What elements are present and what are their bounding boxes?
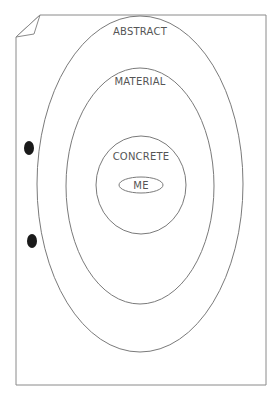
abstract-label: ABSTRACT bbox=[113, 26, 167, 37]
material-label: MATERIAL bbox=[114, 76, 165, 87]
punch-hole-top bbox=[24, 141, 34, 155]
diagram-canvas bbox=[0, 0, 280, 394]
concrete-label: CONCRETE bbox=[113, 151, 170, 162]
punch-hole-bottom bbox=[27, 234, 37, 248]
me-label: ME bbox=[133, 180, 148, 191]
page-outline bbox=[16, 15, 266, 385]
